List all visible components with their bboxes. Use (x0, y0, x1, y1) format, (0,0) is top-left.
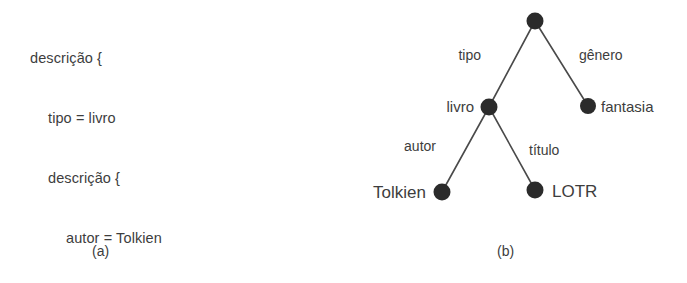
caption-a: (a) (92, 243, 109, 259)
edge-label-autor: autor (404, 138, 436, 154)
edge-genero-line (535, 21, 588, 106)
tree-node-lotr[interactable] (527, 182, 544, 199)
figure-container: descrição { tipo = livro descrição { aut… (0, 0, 687, 283)
panel-a-text-description: descrição { tipo = livro descrição { aut… (0, 0, 340, 283)
description-code-block: descrição { tipo = livro descrição { aut… (30, 8, 162, 283)
edge-tipo-line (489, 21, 535, 107)
edge-label-tipo: tipo (458, 47, 481, 63)
edge-label-titulo: título (529, 142, 560, 158)
tree-node-tolkien[interactable] (434, 184, 451, 201)
tree-node-livro[interactable] (481, 99, 498, 116)
tree-node-root[interactable] (527, 13, 544, 30)
code-line: descrição { (30, 168, 162, 188)
edge-label-genero: gênero (579, 47, 623, 63)
node-label-tolkien: Tolkien (373, 183, 426, 202)
tree-node-fantasia[interactable] (580, 98, 596, 114)
tree-graph: tipo gênero autor título livro fantasia … (340, 0, 687, 235)
node-label-fantasia: fantasia (601, 98, 654, 115)
node-label-lotr: LOTR (552, 182, 597, 201)
code-line: descrição { (30, 48, 162, 68)
caption-b: (b) (497, 243, 514, 259)
panel-b-tree-diagram: tipo gênero autor título livro fantasia … (340, 0, 687, 283)
edge-autor-line (442, 107, 489, 192)
code-line: tipo = livro (30, 108, 162, 128)
node-label-livro: livro (446, 98, 474, 115)
